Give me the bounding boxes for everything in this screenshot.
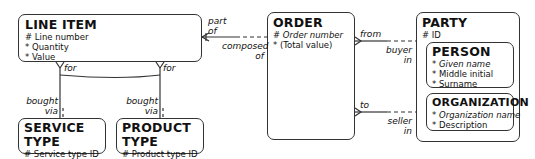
entity-person[interactable]: PERSON * Given name * Middle initial * S… xyxy=(426,42,514,88)
attribute: * Organization name xyxy=(432,110,508,120)
rel-label-buyer: buyer xyxy=(376,45,412,55)
rel-label-composed: composed xyxy=(222,41,264,51)
attribute: * Middle initial xyxy=(432,69,508,79)
attribute: * (Total value) xyxy=(273,40,349,50)
rel-label-in: in xyxy=(376,55,412,65)
entity-organization[interactable]: ORGANIZATION * Organization name * Descr… xyxy=(426,93,514,131)
entity-title: PERSON xyxy=(432,45,508,59)
attribute: * Quantity xyxy=(25,42,195,52)
attribute: # Line number xyxy=(25,32,195,42)
rel-label-from: from xyxy=(360,29,381,39)
entity-product-type[interactable]: PRODUCT TYPE # Product type ID * Price xyxy=(116,118,204,154)
entity-order[interactable]: ORDER # Order number * (Total value) xyxy=(267,12,355,140)
rel-label-bought: bought xyxy=(118,96,158,106)
entity-title: PARTY xyxy=(422,16,514,30)
rel-label-via: via xyxy=(20,106,58,116)
attribute: # Product type ID xyxy=(122,149,198,159)
entity-title: LINE ITEM xyxy=(25,18,195,32)
attribute: # Order number xyxy=(273,30,349,40)
rel-label-for-product: for xyxy=(163,63,175,73)
attribute: # ID xyxy=(422,30,514,40)
entity-title: ORDER xyxy=(273,16,349,30)
attribute: * Description xyxy=(432,120,508,130)
attribute: * Value xyxy=(25,52,195,62)
attribute: * Surname xyxy=(432,79,508,89)
rel-label-of: of xyxy=(208,26,217,36)
rel-label-seller: seller xyxy=(376,116,412,126)
entity-service-type[interactable]: SERVICE TYPE # Service type ID * Rate pe… xyxy=(18,118,106,154)
rel-label-part: part xyxy=(208,16,226,26)
rel-label-in: in xyxy=(376,126,412,136)
entity-title: PRODUCT TYPE xyxy=(122,121,198,149)
entity-title: ORGANIZATION xyxy=(432,96,508,110)
attribute: # Service type ID xyxy=(24,149,100,159)
rel-label-bought: bought xyxy=(20,96,58,106)
entity-title: SERVICE TYPE xyxy=(24,121,100,149)
rel-label-for-service: for xyxy=(64,63,76,73)
attribute: * Given name xyxy=(432,59,508,69)
rel-label-via: via xyxy=(118,106,158,116)
rel-label-of: of xyxy=(222,51,264,61)
entity-line-item[interactable]: LINE ITEM # Line number * Quantity * Val… xyxy=(18,14,202,62)
rel-label-to: to xyxy=(360,100,369,110)
